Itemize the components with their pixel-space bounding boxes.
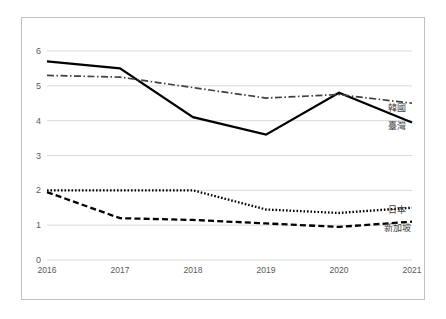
x-tick-label: 2019 xyxy=(242,265,290,275)
y-tick-label: 4 xyxy=(23,116,41,126)
legend-label: 臺灣 xyxy=(388,119,406,132)
series-line-3 xyxy=(47,192,412,227)
series-line-0 xyxy=(47,61,412,134)
legend-label: 新加坡 xyxy=(384,221,411,234)
y-tick-label: 2 xyxy=(23,185,41,195)
x-tick-label: 2016 xyxy=(23,265,71,275)
y-tick-label: 1 xyxy=(23,220,41,230)
series-line-2 xyxy=(47,190,412,213)
x-tick-label: 2018 xyxy=(169,265,217,275)
x-tick-label: 2017 xyxy=(96,265,144,275)
legend-label: 韓國 xyxy=(388,101,406,114)
y-tick-label: 0 xyxy=(23,255,41,265)
x-tick-label: 2021 xyxy=(388,265,436,275)
y-tick-label: 5 xyxy=(23,81,41,91)
y-tick-label: 3 xyxy=(23,151,41,161)
y-tick-label: 6 xyxy=(23,46,41,56)
gridlines xyxy=(47,51,412,260)
legend-label: 日本 xyxy=(388,203,406,216)
x-tick-label: 2020 xyxy=(315,265,363,275)
line-chart: 0123456 201620172018201920202021 韓國臺灣日本新… xyxy=(0,0,446,319)
